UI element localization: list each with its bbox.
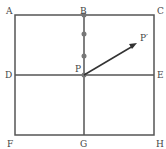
label-C: C <box>157 7 164 16</box>
point-mid-2 <box>82 54 87 59</box>
label-B: B <box>80 7 87 16</box>
label-P-prime: P′ <box>140 34 148 43</box>
label-P: P <box>75 65 81 74</box>
grid-diagram <box>0 0 166 149</box>
label-D: D <box>5 71 12 80</box>
label-F: F <box>7 140 13 149</box>
point-mid-1 <box>82 32 87 37</box>
label-H: H <box>156 140 164 149</box>
label-A: A <box>6 7 13 16</box>
label-E: E <box>157 71 164 80</box>
label-G: G <box>80 140 87 149</box>
arrow-P-to-P-prime <box>84 46 133 75</box>
